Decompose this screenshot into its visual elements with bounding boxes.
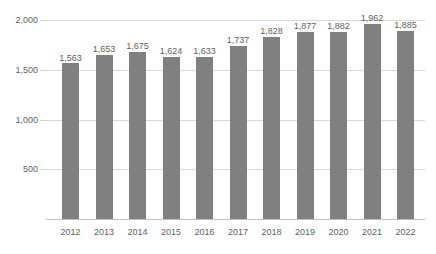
bar-2018[interactable] [263,37,280,219]
bar-2016[interactable] [196,57,213,219]
x-axis-line [46,219,425,220]
bar-2019[interactable] [297,32,314,219]
y-tick-label-500: 500 [0,164,38,174]
bar-2014[interactable] [129,52,146,219]
bar-chart: 2,000 1,500 1,000 500 1,563 1,653 1,675 … [0,0,436,254]
y-tick-label-1000: 1,000 [0,115,38,125]
bar-2012[interactable] [62,63,79,219]
bar-2020[interactable] [330,32,347,219]
y-tick-label-2000: 2,000 [0,15,38,25]
bar-2022[interactable] [397,31,414,219]
bar-2017[interactable] [230,46,247,219]
bar-2013[interactable] [96,55,113,219]
y-tick-label-1500: 1,500 [0,65,38,75]
bar-2015[interactable] [163,57,180,219]
data-label-2022: 1,885 [386,20,426,30]
data-label-2017: 1,737 [218,35,258,45]
bar-2021[interactable] [364,24,381,219]
data-label-2012: 1,563 [51,53,91,63]
data-label-2016: 1,633 [185,46,225,56]
x-tick-label-2022: 2022 [386,227,426,237]
